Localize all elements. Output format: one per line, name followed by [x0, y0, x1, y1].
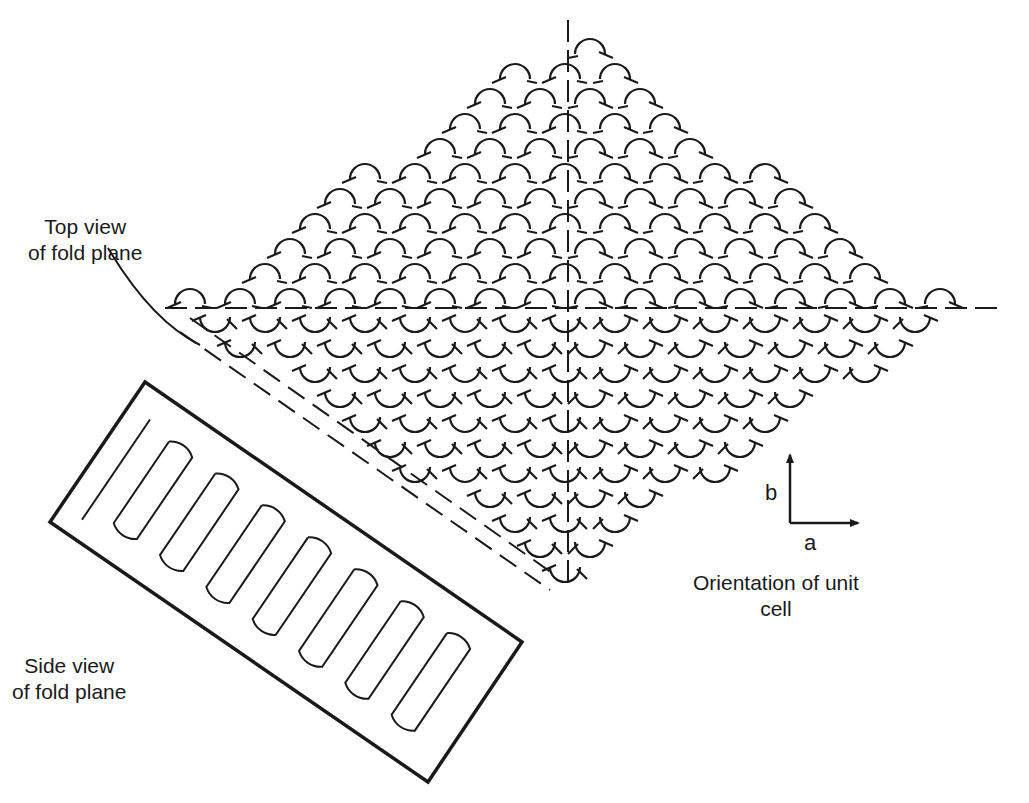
top-view-label: Top view of fold plane: [28, 214, 142, 266]
side-view-label: Side view of fold plane: [12, 653, 126, 705]
diagram-canvas: [0, 0, 1029, 803]
axis-a-label: a: [804, 530, 816, 556]
axis-b-label: b: [765, 480, 777, 506]
orientation-label: Orientation of unit cell: [693, 570, 859, 622]
chain-fold-arcs: [167, 39, 963, 582]
fold-plane-diagram: Top view of fold plane Side view of fold…: [0, 0, 1029, 803]
side-view-box: [50, 382, 522, 782]
unit-cell-axes: [790, 455, 858, 523]
